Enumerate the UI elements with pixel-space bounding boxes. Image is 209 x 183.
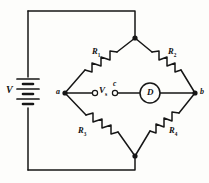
wire-r4-top	[179, 93, 195, 113]
junction-dot-node-b	[192, 90, 197, 95]
resistor-label-r2: R2	[168, 47, 176, 58]
bridge-terminal-left-icon	[92, 90, 97, 95]
resistor-r3-zigzag	[86, 113, 118, 134]
wire-r3-top	[65, 93, 86, 115]
junction-dot-node-a	[62, 90, 67, 95]
wire-bottom	[28, 156, 135, 170]
bridge-voltage-label: Vs	[99, 86, 107, 97]
wire-r4-bottom	[135, 131, 150, 156]
wire-r1-bottom	[65, 70, 85, 93]
resistor-label-r4: R4	[169, 126, 177, 137]
wire-r1-top	[117, 38, 135, 52]
resistor-r1-subscript: 1	[98, 52, 101, 58]
wire-r3-bottom	[118, 132, 135, 156]
source-label: V	[6, 85, 13, 95]
battery-symbol	[17, 79, 39, 104]
node-label-c: c	[113, 80, 116, 88]
resistor-label-r3: R3	[78, 126, 86, 137]
branch-r3	[65, 93, 135, 156]
node-label-a: a	[56, 88, 60, 96]
resistor-r1-zigzag	[85, 51, 117, 72]
junction-dot-top	[132, 35, 137, 40]
wire-r2-bottom	[181, 70, 195, 93]
wire-r2-top	[135, 38, 152, 52]
resistor-r2-zigzag	[152, 51, 181, 72]
circuit-diagram: V a b c Vs D R1 R2 R3 R4	[0, 0, 209, 183]
wire-top	[28, 11, 135, 38]
resistor-r2-subscript: 2	[174, 52, 177, 58]
bridge-voltage-subscript: s	[105, 91, 107, 97]
resistor-r3-subscript: 3	[84, 131, 87, 137]
resistor-label-r1: R1	[92, 47, 100, 58]
resistor-r4-subscript: 4	[175, 131, 178, 137]
detector-label: D	[147, 88, 154, 97]
junction-dot-bottom	[132, 153, 137, 158]
bridge-terminal-right-icon	[112, 90, 117, 95]
branch-r4	[135, 93, 195, 156]
outer-loop-wires	[28, 11, 135, 170]
node-label-b: b	[200, 88, 204, 96]
